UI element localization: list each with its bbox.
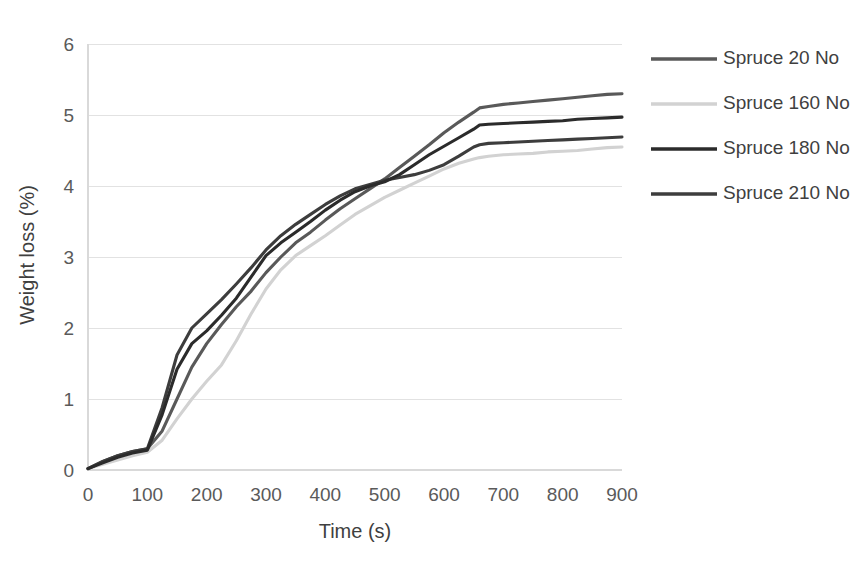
y-tick-label-6: 6	[63, 34, 74, 55]
x-axis-title: Time (s)	[319, 520, 392, 542]
y-tick-label-4: 4	[63, 176, 74, 197]
x-tick-label-200: 200	[191, 484, 223, 505]
legend-label-2: Spruce 180 No	[723, 137, 850, 158]
x-axis-tick-labels: 0100200300400500600700800900	[83, 484, 638, 505]
data-series	[88, 94, 622, 469]
x-tick-label-0: 0	[83, 484, 94, 505]
legend-label-3: Spruce 210 No	[723, 182, 850, 203]
legend-label-1: Spruce 160 No	[723, 92, 850, 113]
y-tick-label-2: 2	[63, 318, 74, 339]
x-tick-label-500: 500	[369, 484, 401, 505]
series-line-spruce-20-no	[88, 94, 622, 469]
y-tick-label-3: 3	[63, 247, 74, 268]
legend-label-0: Spruce 20 No	[723, 47, 839, 68]
chart-container: 0123456 0100200300400500600700800900 Spr…	[0, 0, 861, 563]
chart-legend: Spruce 20 NoSpruce 160 NoSpruce 180 NoSp…	[651, 47, 850, 203]
line-chart: 0123456 0100200300400500600700800900 Spr…	[0, 0, 861, 563]
y-axis-tick-labels: 0123456	[63, 34, 74, 481]
x-tick-label-100: 100	[131, 484, 163, 505]
gridlines	[88, 44, 622, 470]
x-tick-label-800: 800	[547, 484, 579, 505]
x-tick-label-600: 600	[428, 484, 460, 505]
x-tick-label-400: 400	[309, 484, 341, 505]
x-tick-label-700: 700	[487, 484, 519, 505]
y-axis-title: Weight loss (%)	[16, 185, 38, 325]
y-tick-label-5: 5	[63, 105, 74, 126]
x-tick-label-300: 300	[250, 484, 282, 505]
y-tick-label-0: 0	[63, 460, 74, 481]
y-tick-label-1: 1	[63, 389, 74, 410]
x-tick-label-900: 900	[606, 484, 638, 505]
